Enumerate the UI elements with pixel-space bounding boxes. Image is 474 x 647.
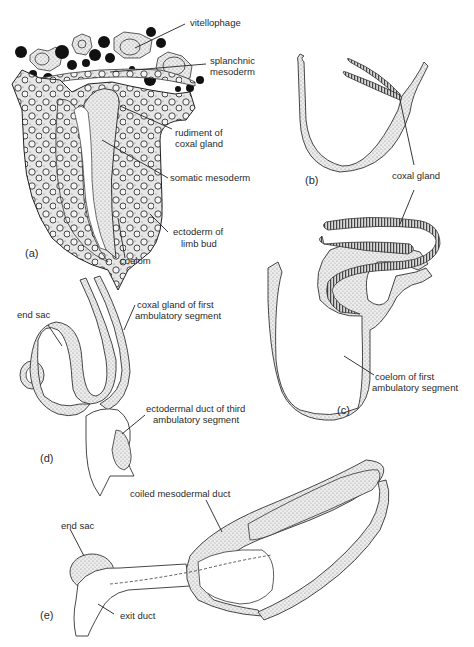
coelom-b [297, 54, 428, 172]
label-end-sac-d: end sac [17, 309, 50, 320]
label-coelom-first-line2: ambulatory segment [372, 382, 458, 393]
label-ectoderm-line1: ectoderm of [173, 226, 223, 237]
label-rudiment-line2: coxal gland [175, 138, 223, 149]
exit-duct-e [74, 564, 190, 636]
label-ectodermal-duct-line2: ambulatory segment [153, 414, 239, 425]
panel-label-a: (a) [25, 247, 38, 259]
label-coxal-gland-first-line2: ambulatory segment [135, 310, 221, 321]
figure-drawings [0, 0, 474, 647]
panel-label-e: (e) [40, 609, 53, 621]
label-vitellophage: vitellophage [190, 17, 241, 28]
label-coelom: coelom [120, 255, 151, 266]
label-somatic-mesoderm: somatic mesoderm [170, 172, 250, 183]
label-end-sac-e: end sac [61, 520, 94, 531]
label-ectodermal-duct-line1: ectodermal duct of third [146, 403, 245, 414]
label-coelom-first-line1: coelom of first [375, 371, 434, 382]
label-coxal-gland-first-line1: coxal gland of first [137, 299, 214, 310]
label-splanchnic-mesoderm-line1: splanchnic [210, 55, 255, 66]
label-ectoderm-line2: limb bud [181, 238, 217, 249]
panel-label-d: (d) [40, 452, 53, 464]
panel-a-drawing [12, 24, 206, 290]
panel-b-drawing [297, 54, 428, 172]
label-exit-duct: exit duct [120, 610, 155, 621]
figure-coxal-gland-development: vitellophage splanchnic mesoderm rudimen… [0, 0, 474, 647]
label-coiled-mesodermal-duct: coiled mesodermal duct [130, 488, 230, 499]
panel-e-drawing [70, 460, 389, 636]
label-coxal-gland: coxal gland [392, 170, 440, 181]
coiled-mesodermal-duct-inner [248, 470, 380, 540]
label-rudiment-line1: rudiment of [175, 127, 223, 138]
label-splanchnic-mesoderm-line2: mesoderm [210, 66, 255, 77]
panel-label-c: (c) [337, 404, 350, 416]
panel-label-b: (b) [305, 174, 318, 186]
